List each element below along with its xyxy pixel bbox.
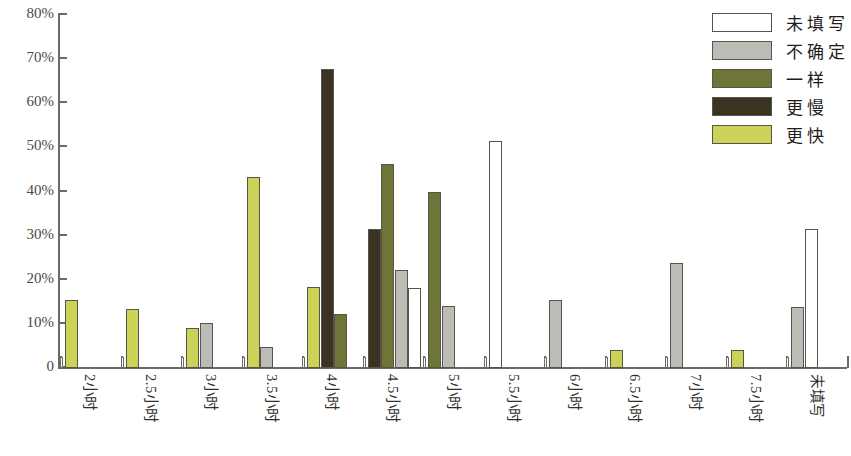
bar-group-marker [726,357,729,368]
x-axis-tick-label: 2小时 [82,374,97,452]
bar-group-marker [302,357,305,368]
bar [381,164,394,368]
bar-group-marker [121,357,124,368]
legend-item: 更快 [712,122,849,147]
bar [610,350,623,368]
y-axis-tick-label: 70% [8,50,54,65]
y-axis-tick-label: 0 [8,359,54,374]
bar-group [60,14,121,368]
y-axis-tick-label: 20% [8,271,54,286]
bar [395,270,408,368]
bar-group [242,14,303,368]
bar-group-marker [423,357,426,368]
legend-item: 更慢 [712,94,849,119]
x-axis-tick-label: 2.5小时 [143,374,158,452]
x-axis-tick-label: 3小时 [203,374,218,452]
bar [805,229,818,368]
legend-swatch [712,41,772,60]
bar-group [605,14,666,368]
legend-label: 一样 [786,66,828,91]
bar-group-marker [242,357,245,368]
bar-group [181,14,242,368]
bar-group-marker [665,357,668,368]
x-axis-tick-label: 5.5小时 [506,374,521,452]
y-axis-label-slot: 0 [0,367,54,368]
bar-group [302,14,363,368]
legend-swatch [712,13,772,32]
y-axis-label-slot: 50% [0,146,54,147]
y-axis-tick-label: 60% [8,94,54,109]
bar [200,323,213,368]
bar-group-marker [605,357,608,368]
bar [791,307,804,368]
bar [408,288,421,368]
y-axis-tick-label: 40% [8,183,54,198]
bar [65,300,78,368]
x-axis-tick-label: 3.5小时 [264,374,279,452]
y-axis-label-slot: 10% [0,323,54,324]
bar [334,314,347,368]
legend-swatch [712,97,772,116]
chart-legend: 未填写不确定一样更慢更快 [712,10,849,150]
x-axis-tick-label: 4小时 [324,374,339,452]
bar [549,300,562,368]
legend-label: 未填写 [786,10,849,35]
y-axis-tick-label: 10% [8,315,54,330]
legend-label: 不确定 [786,38,849,63]
legend-item: 不确定 [712,38,849,63]
y-axis-tick-label: 30% [8,227,54,242]
x-axis-tick-label: 7小时 [688,374,703,452]
x-axis-tick-label: 7.5小时 [748,374,763,452]
legend-swatch [712,125,772,144]
bar [307,287,320,368]
bar-group-marker [484,357,487,368]
bar-group-marker [181,357,184,368]
legend-swatch [712,69,772,88]
y-axis-tick-label: 80% [8,6,54,21]
bar [368,229,381,368]
bar-group [363,14,424,368]
bar [260,347,273,368]
y-axis-label-slot: 70% [0,58,54,59]
bar-group [121,14,182,368]
x-axis-tick-label: 5小时 [445,374,460,452]
legend-label: 更快 [786,122,828,147]
legend-label: 更慢 [786,94,828,119]
y-axis-label-slot: 20% [0,279,54,280]
x-axis-tick-label: 6小时 [566,374,581,452]
bar [442,306,455,368]
bar [321,69,334,368]
bar-group [484,14,545,368]
bar [428,192,441,368]
bar-group-marker [363,357,366,368]
x-axis-tick-label: 4.5小时 [385,374,400,452]
y-axis-label-slot: 40% [0,191,54,192]
y-axis-label-slot: 30% [0,235,54,236]
legend-item: 一样 [712,66,849,91]
bar [126,309,139,368]
bar [489,141,502,368]
y-axis-label-slot: 80% [0,14,54,15]
bar [186,328,199,368]
bar [670,263,683,368]
x-axis-tick-label: 6.5小时 [627,374,642,452]
bar-group-marker [60,357,63,368]
y-axis-tick-label: 50% [8,138,54,153]
bar-group [423,14,484,368]
legend-item: 未填写 [712,10,849,35]
bar-group-marker [544,357,547,368]
x-axis-tick-label: 未填写 [809,374,824,452]
bar-group-marker [786,357,789,368]
x-axis-tick [847,356,849,368]
y-axis-label-slot: 60% [0,102,54,103]
bar [247,177,260,368]
bar-chart: 80%70%60%50%40%30%20%10%0 2小时2.5小时3小时3.5… [0,0,851,456]
bar [731,350,744,368]
bar-group [544,14,605,368]
